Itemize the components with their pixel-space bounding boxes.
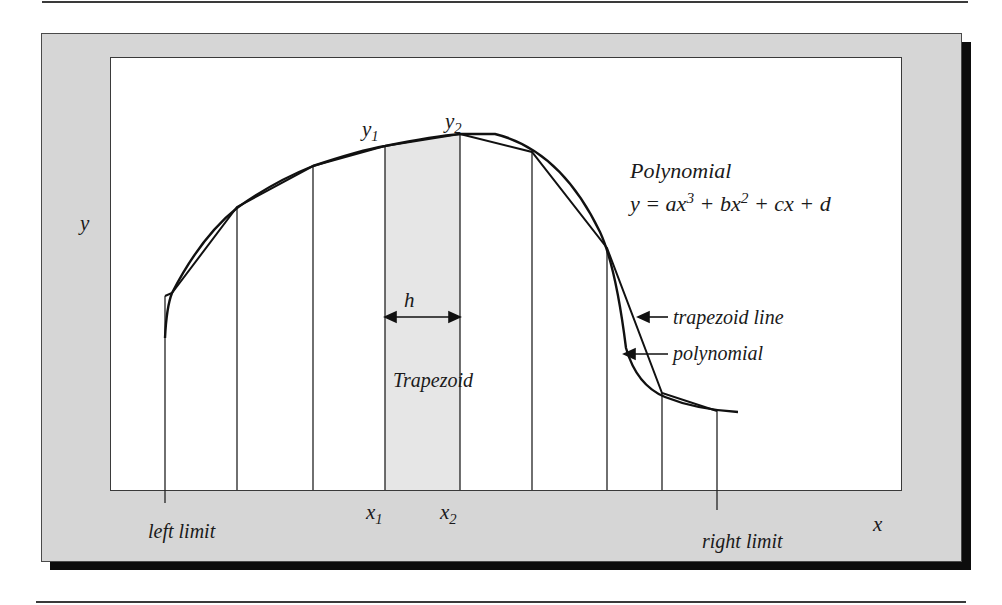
eq-mid: + bx <box>694 191 741 216</box>
x2-base: x <box>440 500 449 524</box>
trapezoid-label: Trapezoid <box>393 370 473 390</box>
x2-sub: 2 <box>449 511 456 527</box>
x-axis-label: x <box>873 514 882 535</box>
x1-base: x <box>366 500 375 524</box>
x1-sub: 1 <box>375 511 382 527</box>
y-axis-label: y <box>80 213 89 234</box>
polynomial-title: Polynomial <box>630 160 731 182</box>
x2-label: x2 <box>440 502 457 527</box>
polynomial-equation: y = ax3 + bx2 + cx + d <box>630 190 831 215</box>
eq-lhs: y = ax <box>630 191 686 216</box>
h-label: h <box>404 290 415 311</box>
y1-sub: 1 <box>371 128 378 144</box>
right-limit-label: right limit <box>702 531 783 551</box>
y2-label: y2 <box>445 111 462 136</box>
y2-sub: 2 <box>454 120 461 136</box>
eq-exp-3: 3 <box>686 189 694 206</box>
left-limit-label: left limit <box>148 521 215 541</box>
eq-rest: + cx + d <box>748 191 830 216</box>
trapezoid-line-callout: trapezoid line <box>673 307 784 327</box>
polynomial-callout: polynomial <box>673 343 763 363</box>
x1-label: x1 <box>366 502 383 527</box>
y2-base: y <box>445 109 454 133</box>
y1-base: y <box>362 117 371 141</box>
diagram-graphics <box>0 0 1002 605</box>
y1-label: y1 <box>362 119 379 144</box>
